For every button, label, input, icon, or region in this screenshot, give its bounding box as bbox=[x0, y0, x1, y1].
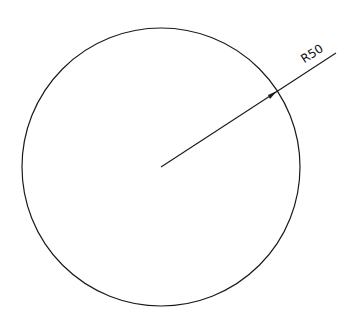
dimension-arrow-icon bbox=[268, 91, 277, 99]
cad-drawing: R50 bbox=[0, 0, 358, 332]
radius-dimension-line bbox=[161, 53, 336, 167]
